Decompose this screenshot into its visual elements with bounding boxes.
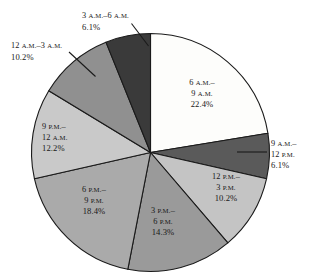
slice-label-percent: 18.4% [64, 206, 124, 217]
slice-label-line2: 12 P.M. [271, 150, 326, 161]
slice-label-3pm-6pm: 3 P.M.– 6 P.M. 14.3% [133, 206, 193, 238]
slice-label-percent: 6.1% [271, 160, 326, 171]
slice-label-line2: 12 A.M. [42, 133, 104, 144]
slice-label-line2: 9 P.M. [64, 196, 124, 207]
pie-chart: 6 A.M.– 9 A.M. 22.4% 9 A.M.– 12 P.M. 6.1… [0, 0, 326, 279]
slice-label-line1: 6 A.M.– [165, 78, 239, 89]
slice-label-line1: 12 A.M.–3 A.M. [11, 41, 107, 52]
slice-label-12am-3am: 12 A.M.–3 A.M. 10.2% [11, 41, 107, 62]
slice-label-6pm-9pm: 6 P.M.– 9 P.M. 18.4% [64, 185, 124, 217]
slice-label-12pm-3pm: 12 P.M.– 3 P.M. 10.2% [196, 172, 256, 204]
slice-label-line1: 3 A.M.–6 A.M. [82, 11, 172, 22]
slice-label-line2: 6 P.M. [133, 217, 193, 228]
slice-label-percent: 6.1% [82, 22, 172, 33]
slice-label-line2: 3 P.M. [196, 183, 256, 194]
slice-label-percent: 14.3% [133, 227, 193, 238]
slice-label-line2: 9 A.M. [165, 89, 239, 100]
slice-label-line1: 6 P.M.– [64, 185, 124, 196]
slice-label-line1: 9 A.M.– [271, 139, 326, 150]
slice-label-line1: 9 P.M.– [42, 122, 104, 133]
slice-label-6am-9am: 6 A.M.– 9 A.M. 22.4% [165, 78, 239, 110]
slice-label-percent: 22.4% [165, 99, 239, 110]
slice-label-9pm-12am: 9 P.M.– 12 A.M. 12.2% [42, 122, 104, 154]
slice-label-3am-6am: 3 A.M.–6 A.M. 6.1% [82, 11, 172, 32]
slice-label-9am-12pm: 9 A.M.– 12 P.M. 6.1% [271, 139, 326, 171]
slice-label-percent: 12.2% [42, 143, 104, 154]
slice-label-line1: 12 P.M.– [196, 172, 256, 183]
slice-label-percent: 10.2% [196, 193, 256, 204]
slice-label-percent: 10.2% [11, 52, 107, 63]
slice-label-line1: 3 P.M.– [133, 206, 193, 217]
